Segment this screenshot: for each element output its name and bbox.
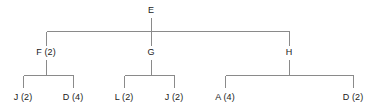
tree-node-f: F (2) — [34, 47, 58, 58]
tree-node-h-child-a: A (4) — [213, 92, 237, 103]
tree-node-e: E — [146, 5, 156, 16]
tree-node-g: G — [145, 47, 156, 58]
tree-node-f-child-j: J (2) — [12, 92, 35, 103]
tree-diagram: E F (2) G H J (2) D (4) L (2) J (2) A (4… — [0, 0, 375, 112]
tree-node-h: H — [284, 47, 295, 58]
tree-node-g-child-l: L (2) — [113, 92, 136, 103]
tree-node-g-child-j: J (2) — [163, 92, 186, 103]
tree-node-f-child-d: D (4) — [61, 92, 86, 103]
tree-node-h-child-d: D (2) — [341, 92, 366, 103]
